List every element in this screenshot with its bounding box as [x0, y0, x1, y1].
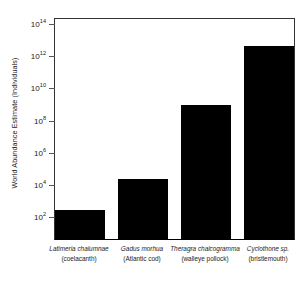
y-axis-tick-label: 104 [34, 180, 46, 191]
y-axis-tick: 1014 [49, 24, 55, 25]
y-axis-tick-label: 108 [34, 116, 46, 127]
bar [181, 105, 231, 239]
y-axis-tick-exponent: 12 [40, 51, 46, 57]
y-axis-title: World Abundance Estimate (Individuals) [8, 3, 22, 243]
y-axis-tick: 108 [49, 121, 55, 122]
y-axis-tick-label: 102 [34, 212, 46, 223]
y-axis-tick-exponent: 10 [40, 83, 46, 89]
y-axis-tick-label: 1012 [31, 51, 46, 62]
species-common-name: (bristlemouth) [224, 254, 304, 264]
y-axis-tick: 104 [49, 185, 55, 186]
x-axis-tick-label: Cyclothone sp.(bristlemouth) [224, 244, 304, 263]
y-axis-tick-label: 1010 [31, 83, 46, 94]
y-axis-tick-label: 1014 [31, 19, 46, 30]
y-axis-tick-label: 106 [34, 148, 46, 159]
bar [118, 179, 168, 239]
y-axis-tick-exponent: 6 [43, 147, 46, 153]
y-axis-tick: 106 [49, 153, 55, 154]
y-axis-tick-exponent: 2 [43, 211, 46, 217]
species-scientific-name: Cyclothone sp. [224, 244, 304, 254]
bar [244, 46, 294, 239]
bar [55, 210, 105, 239]
y-axis-tick-exponent: 14 [40, 18, 46, 24]
y-axis-tick: 1012 [49, 56, 55, 57]
y-axis-tick: 1010 [49, 88, 55, 89]
y-axis-tick-exponent: 4 [43, 179, 46, 185]
abundance-bar-chart: World Abundance Estimate (Individuals) 1… [0, 0, 304, 291]
y-axis-tick-exponent: 8 [43, 115, 46, 121]
plot-area: 102104106108101010121014 [54, 18, 295, 240]
